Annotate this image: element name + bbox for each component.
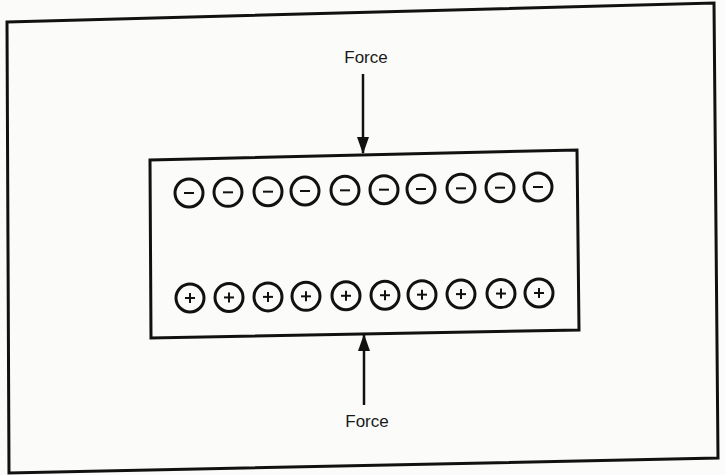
bottom-force-label: Force bbox=[327, 412, 407, 432]
crystal-box bbox=[150, 150, 579, 338]
top-force-label: Force bbox=[326, 48, 406, 68]
diagram-canvas bbox=[0, 0, 725, 475]
positive-charge-row bbox=[176, 279, 553, 312]
bottom-arrowhead-icon bbox=[358, 334, 370, 351]
outer-frame bbox=[7, 3, 718, 473]
negative-charge-row bbox=[175, 173, 552, 207]
top-arrowhead-icon bbox=[357, 137, 369, 154]
